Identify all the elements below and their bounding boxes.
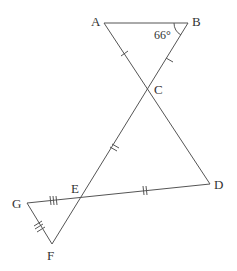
segment-bf bbox=[52, 23, 188, 244]
tick-ge-1 bbox=[50, 196, 51, 205]
segment-ad bbox=[104, 23, 210, 184]
point-label-b: B bbox=[192, 15, 201, 28]
tick-ce-2 bbox=[112, 144, 119, 148]
segment-gd bbox=[27, 184, 210, 203]
geometry-diagram: A B C D E F G 66° bbox=[0, 0, 237, 271]
point-label-g: G bbox=[12, 197, 21, 210]
point-label-d: D bbox=[214, 178, 223, 191]
point-label-f: F bbox=[47, 249, 54, 262]
tick-ed-2 bbox=[146, 186, 147, 195]
angle-arc-b bbox=[174, 23, 181, 35]
angle-label-b: 66° bbox=[154, 29, 171, 41]
tick-ed-1 bbox=[143, 186, 144, 195]
segment-gf bbox=[27, 203, 52, 244]
tick-ge-3 bbox=[56, 196, 57, 205]
tick-ce-1 bbox=[110, 147, 117, 151]
point-label-e: E bbox=[71, 182, 79, 195]
tick-ge-2 bbox=[53, 196, 54, 205]
diagram-canvas bbox=[0, 0, 237, 271]
tick-bc bbox=[166, 58, 173, 62]
tick-ac bbox=[121, 51, 128, 56]
point-label-a: A bbox=[91, 15, 100, 28]
point-label-c: C bbox=[154, 83, 163, 96]
